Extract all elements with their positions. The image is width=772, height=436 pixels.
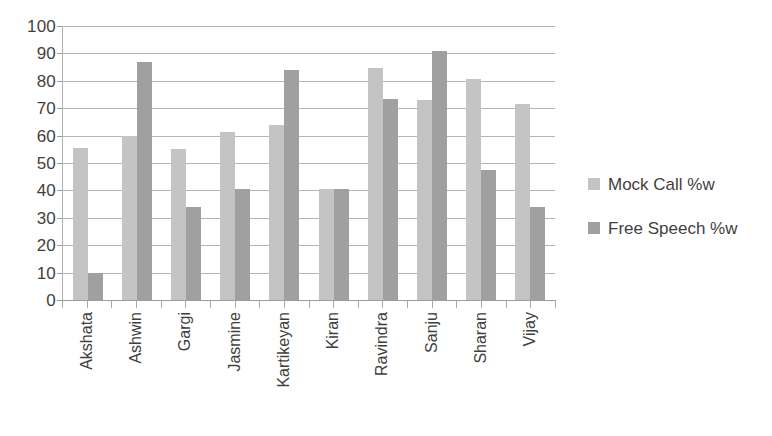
y-tick-label: 0 [46, 292, 56, 309]
bar-group [407, 26, 456, 300]
bar [319, 189, 334, 300]
y-axis-tickmark [57, 108, 62, 109]
y-axis-tickmark [57, 26, 62, 27]
x-axis-category-label: Vijay [522, 312, 538, 346]
y-axis-tickmark [57, 218, 62, 219]
x-axis-tickmark [432, 301, 433, 308]
y-tick-label: 10 [37, 264, 56, 281]
bar [466, 79, 481, 300]
x-axis-tickmark [358, 301, 359, 308]
y-axis-tickmark [57, 163, 62, 164]
x-axis-category-label: Akshata [79, 312, 95, 370]
bar-group [161, 26, 210, 300]
x-axis-tickmark [62, 301, 63, 308]
legend-item[interactable]: Free Speech %w [588, 216, 768, 240]
x-axis-tickmark [555, 301, 556, 308]
y-tick-label: 90 [37, 45, 56, 62]
bar-group [309, 26, 358, 300]
x-label-slot: Ravindra [357, 312, 407, 430]
x-axis-tickmark [382, 301, 383, 308]
x-axis-category-label: Ravindra [374, 312, 390, 376]
x-axis-tickmark [87, 301, 88, 308]
bar-group [63, 26, 112, 300]
y-tick-label: 30 [37, 209, 56, 226]
x-axis-category-label: Sharan [473, 312, 489, 364]
x-label-slot: Kartikeyan [259, 312, 309, 430]
x-axis-tickmark [481, 301, 482, 308]
y-tick-label: 80 [37, 72, 56, 89]
plot-area [62, 26, 555, 300]
x-label-slot: Ashwin [111, 312, 161, 430]
bar-group [260, 26, 309, 300]
y-tick-label: 40 [37, 182, 56, 199]
bar [334, 189, 349, 300]
legend-swatch-icon [588, 178, 600, 190]
x-axis-category-label: Kartikeyan [276, 312, 292, 388]
x-axis-tickmark [210, 301, 211, 308]
bar [73, 148, 88, 300]
x-axis-tickmark [333, 301, 334, 308]
y-axis-tickmark [57, 273, 62, 274]
bar-group [358, 26, 407, 300]
x-axis-tickmark [284, 301, 285, 308]
x-axis-category-label: Gargi [177, 312, 193, 351]
y-axis-tickmark [57, 245, 62, 246]
legend-label: Free Speech %w [608, 220, 737, 237]
bar [122, 136, 137, 300]
y-axis-tickmark [57, 81, 62, 82]
x-axis-tickmark [309, 301, 310, 308]
bar [88, 273, 103, 300]
x-axis-tickmark [259, 301, 260, 308]
x-label-slot: Sanju [407, 312, 457, 430]
bar-group [211, 26, 260, 300]
x-axis-tickmark [185, 301, 186, 308]
x-label-slot: Vijay [505, 312, 555, 430]
x-axis-category-label: Kiran [325, 312, 341, 349]
x-axis-tickmark [161, 301, 162, 308]
bar [171, 149, 186, 300]
legend-item[interactable]: Mock Call %w [588, 172, 768, 196]
bar [383, 99, 398, 300]
x-label-slot: Kiran [308, 312, 358, 430]
bar [417, 100, 432, 300]
x-axis-tickmark [456, 301, 457, 308]
bar [432, 51, 447, 300]
x-axis-labels: AkshataAshwinGargiJasmineKartikeyanKiran… [62, 312, 556, 430]
bar [235, 189, 250, 300]
chart-legend: Mock Call %wFree Speech %w [588, 172, 768, 260]
bar [515, 104, 530, 300]
x-axis-tickmark [136, 301, 137, 308]
bar-group [112, 26, 161, 300]
y-axis-tickmark [57, 136, 62, 137]
y-tick-label: 60 [37, 127, 56, 144]
bar [481, 170, 496, 300]
y-tick-label: 50 [37, 155, 56, 172]
bar-group [457, 26, 506, 300]
x-axis-tickmark [235, 301, 236, 308]
bar [284, 70, 299, 300]
x-label-slot: Sharan [456, 312, 506, 430]
x-label-slot: Jasmine [210, 312, 260, 430]
x-axis-tickmarks [62, 301, 556, 308]
x-axis-tickmark [530, 301, 531, 308]
bar [530, 207, 545, 300]
x-axis-tickmark [111, 301, 112, 308]
bar [368, 68, 383, 300]
x-axis-category-label: Sanju [424, 312, 440, 353]
bar [137, 62, 152, 300]
bar-group [506, 26, 555, 300]
y-tick-label: 20 [37, 237, 56, 254]
y-tick-label: 70 [37, 100, 56, 117]
x-axis-tickmark [407, 301, 408, 308]
bar [186, 207, 201, 300]
y-axis-tickmark [57, 190, 62, 191]
x-axis-tickmark [506, 301, 507, 308]
legend-label: Mock Call %w [608, 176, 715, 193]
bar-groups [63, 26, 555, 300]
legend-swatch-icon [588, 222, 600, 234]
x-label-slot: Gargi [160, 312, 210, 430]
y-tick-label: 100 [27, 18, 56, 35]
bar [220, 132, 235, 301]
x-label-slot: Akshata [62, 312, 112, 430]
bar-chart: 1009080706050403020100 AkshataAshwinGarg… [0, 0, 772, 436]
